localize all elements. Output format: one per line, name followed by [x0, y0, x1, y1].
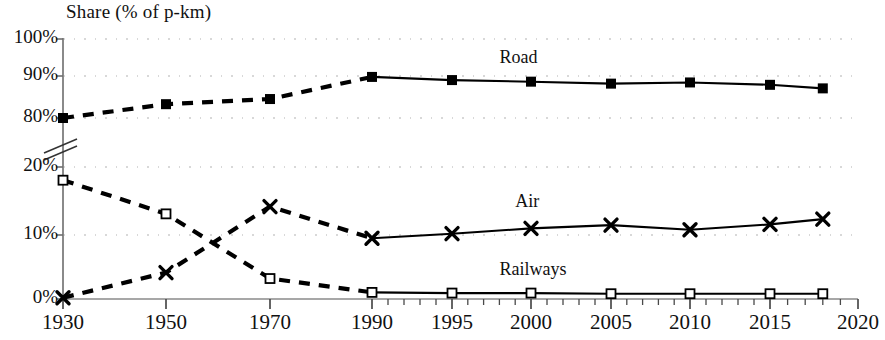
y-axis-tick-label: 0%	[33, 286, 58, 308]
y-axis-tick-label: 20%	[23, 154, 58, 176]
x-axis-tick-label: 1970	[249, 310, 291, 335]
series-label-road: Road	[499, 47, 537, 68]
y-axis-tick-label: 80%	[23, 105, 58, 127]
x-axis-tick-label: 2015	[749, 310, 791, 335]
chart-title: Share (% of p-km)	[66, 1, 211, 23]
chart-container: Share (% of p-km) 100%90%80%20%10%0% 193…	[0, 0, 885, 340]
x-axis-tick-label: 1930	[42, 310, 84, 335]
x-axis-tick-label: 1950	[145, 310, 187, 335]
y-axis-tick-label: 10%	[23, 222, 58, 244]
series-label-railways: Railways	[499, 259, 566, 280]
chart-plot-area	[0, 0, 885, 340]
y-axis-tick-label: 100%	[14, 26, 58, 48]
series-label-air: Air	[515, 191, 539, 212]
x-axis-tick-label: 2005	[590, 310, 632, 335]
x-axis-tick-label: 2020	[837, 310, 879, 335]
y-axis-tick-label: 90%	[23, 63, 58, 85]
x-axis-tick-label: 1995	[431, 310, 473, 335]
x-axis-tick-label: 2010	[669, 310, 711, 335]
x-axis-tick-label: 2000	[510, 310, 552, 335]
x-axis-tick-label: 1990	[351, 310, 393, 335]
